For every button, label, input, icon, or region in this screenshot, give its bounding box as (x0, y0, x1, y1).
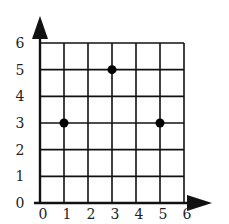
coordinate-grid: 0123456 0123456 (0, 0, 229, 224)
y-axis-arrow-icon (32, 16, 48, 39)
y-tick-label: 1 (16, 168, 25, 184)
x-tick-label: 2 (87, 206, 96, 222)
data-point (108, 65, 117, 74)
data-point (60, 119, 69, 128)
y-tick-label: 5 (16, 62, 25, 78)
x-axis-tick-labels: 0123456 (39, 206, 192, 222)
y-axis-tick-labels: 0123456 (16, 35, 25, 211)
y-tick-label: 6 (16, 35, 25, 51)
x-tick-label: 5 (159, 206, 168, 222)
x-tick-label: 0 (39, 206, 48, 222)
data-point (156, 119, 165, 128)
y-tick-label: 2 (16, 142, 25, 158)
x-tick-label: 4 (135, 206, 144, 222)
y-tick-label: 3 (16, 115, 25, 131)
y-tick-label: 0 (16, 195, 25, 211)
x-tick-label: 3 (111, 206, 120, 222)
x-tick-label: 1 (63, 206, 72, 222)
x-tick-label: 6 (183, 206, 192, 222)
y-tick-label: 4 (16, 88, 25, 104)
axes (32, 16, 212, 211)
